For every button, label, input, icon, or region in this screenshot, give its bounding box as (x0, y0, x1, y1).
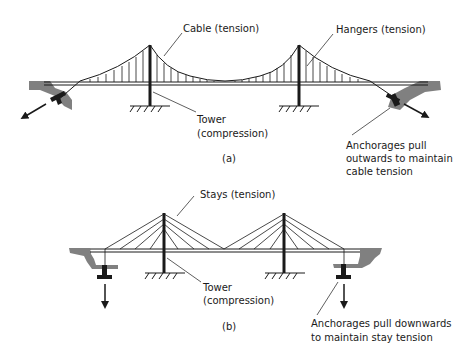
label-anchor-a-line1: Anchorages pull (346, 140, 427, 151)
foundation-left (130, 106, 170, 112)
leader-tower-b (167, 258, 201, 282)
arrow-left-outward (24, 104, 46, 117)
label-anchor-b-line2: to maintain stay tension (311, 332, 433, 343)
leader-cable (164, 33, 182, 56)
foundation-left-b (145, 273, 185, 279)
foundation-right-b (265, 273, 305, 279)
leader-anchor-b (317, 282, 338, 315)
label-cable: Cable (tension) (183, 23, 259, 34)
leader-stays (177, 196, 194, 216)
label-anchor-a-line2: outwards to maintain (346, 153, 453, 164)
foundation-right (279, 106, 319, 112)
label-tower-a-line2: (compression) (197, 128, 268, 139)
label-hangers: Hangers (tension) (336, 24, 426, 35)
caption-a: (a) (222, 153, 236, 164)
label-anchor-a-line3: cable tension (346, 166, 413, 177)
label-tower-b-line1: Tower (202, 282, 233, 293)
right-abutment-b (333, 248, 382, 268)
leader-anchor-a (352, 108, 390, 135)
leader-hangers (307, 34, 333, 66)
hangers (90, 51, 358, 82)
arrow-right-outward (404, 104, 426, 116)
suspension-bridge-diagram: Cable (tension) Hangers (tension) Tower … (24, 23, 453, 177)
caption-b: (b) (222, 321, 236, 332)
label-tower-a-line1: Tower (196, 114, 227, 125)
main-cable (57, 45, 395, 101)
cable-stayed-bridge-diagram: Stays (tension) Tower (compression) (b) … (69, 189, 451, 343)
label-tower-b-line2: (compression) (203, 295, 274, 306)
label-anchor-b-line1: Anchorages pull downwards (311, 318, 451, 329)
label-stays: Stays (tension) (200, 189, 275, 200)
left-abutment-b (69, 248, 118, 269)
